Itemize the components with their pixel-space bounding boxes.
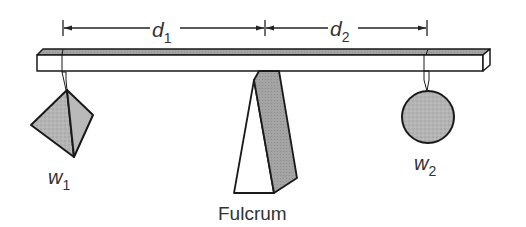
beam-top-face [37, 49, 490, 55]
label-d2: d2 [330, 17, 350, 45]
label-d1: d1 [152, 18, 172, 46]
label-d1-sub: 1 [164, 30, 172, 46]
diagram-canvas: d1 d2 w1 w2 Fulcrum [0, 0, 526, 227]
fulcrum [234, 71, 297, 193]
lever-diagram: d1 d2 w1 w2 Fulcrum [0, 0, 526, 227]
d2-arrow-right [418, 26, 426, 31]
label-fulcrum: Fulcrum [218, 203, 287, 224]
label-w1: w1 [48, 166, 70, 193]
d1-arrow-left [64, 26, 72, 31]
label-w2-sub: 2 [428, 163, 436, 179]
label-w1-sub: 1 [62, 177, 70, 193]
beam [37, 49, 490, 71]
label-d2-sub: 2 [342, 29, 350, 45]
beam-front-face [37, 55, 483, 71]
label-w2: w2 [414, 152, 436, 179]
w2-sphere [402, 91, 454, 143]
d1-arrow-right [256, 26, 264, 31]
d2-arrow-left [266, 26, 274, 31]
